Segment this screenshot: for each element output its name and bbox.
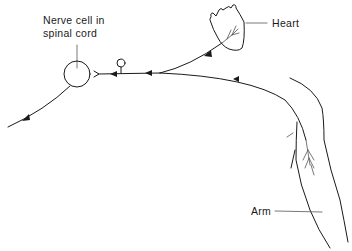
heart-nerve-endings: [222, 26, 239, 43]
incoming-arrow-1-icon: [110, 71, 117, 77]
heart-outline-icon: [210, 5, 244, 50]
nerve-cell-label: Nerve cell in spinal cord: [43, 14, 105, 40]
arm-outer-contour: [290, 78, 348, 242]
arm-label: Arm: [251, 205, 271, 218]
arm-nerve-path: [160, 73, 306, 140]
heart-label: Heart: [272, 17, 299, 30]
arm-crease-line: [291, 150, 295, 168]
nerve-cell-label-line2: spinal cord: [43, 27, 105, 40]
heart-nerve-path: [160, 43, 222, 73]
arm-nerve-endings: [303, 140, 314, 175]
output-nerve-path: [8, 86, 70, 127]
incoming-arrow-2-icon: [145, 70, 152, 76]
synaptic-knob-circle: [117, 59, 125, 67]
arm-inner-contour: [296, 122, 330, 248]
arm-armpit-line: [287, 133, 293, 137]
referred-pain-diagram: Nerve cell in spinal cord Heart Arm: [0, 0, 352, 251]
synapse-fork-icon: [94, 71, 99, 77]
nerve-cell-label-line1: Nerve cell in: [43, 14, 105, 27]
output-arrow-icon: [22, 114, 30, 121]
arm-leader-line: [275, 211, 322, 212]
